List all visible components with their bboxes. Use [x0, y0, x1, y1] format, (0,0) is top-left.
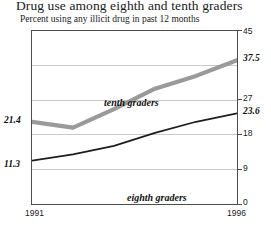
line-eighth-graders: [32, 113, 237, 160]
series-label-eighth-graders: eighth graders: [127, 192, 187, 203]
tickmark-0: [238, 204, 242, 205]
chart-figure: Drug use among eighth and tenth graders …: [0, 0, 271, 230]
series-lines: [32, 31, 237, 204]
x-axis-tick-1996: 1996: [227, 208, 246, 218]
line-tenth-graders: [32, 60, 237, 127]
plot-area: tenth graders eighth graders: [31, 30, 238, 205]
chart-subtitle: Percent using any illicit drug in past 1…: [20, 14, 199, 24]
end-value-eighth-graders: 23.6: [243, 106, 260, 116]
tickmark-9: [238, 169, 242, 170]
tickmark-45: [238, 30, 242, 31]
y-axis-tick-9: 9: [243, 163, 248, 173]
chart-title: Drug use among eighth and tenth graders: [16, 0, 243, 14]
plot-inner: tenth graders eighth graders: [32, 31, 237, 204]
start-value-tenth-graders: 21.4: [4, 115, 21, 125]
end-value-tenth-graders: 37.5: [243, 53, 260, 63]
series-label-tenth-graders: tenth graders: [104, 97, 159, 108]
x-axis-tick-1991: 1991: [25, 208, 44, 218]
y-axis-tick-27: 27: [243, 93, 252, 103]
y-axis-tick-45: 45: [243, 26, 252, 36]
start-value-eighth-graders: 11.3: [4, 159, 20, 169]
y-axis-tick-0: 0: [243, 197, 248, 207]
tickmark-27: [238, 99, 242, 100]
tickmark-18: [238, 134, 242, 135]
y-axis-tick-18: 18: [243, 128, 252, 138]
